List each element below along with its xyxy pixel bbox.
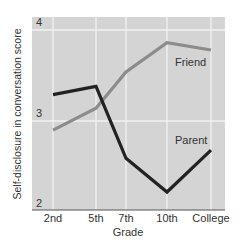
x-tick-label: College: [192, 212, 229, 224]
x-axis-label: Grade: [113, 226, 144, 238]
y-tick-label: 2: [36, 197, 42, 209]
x-tick-label: 7th: [118, 212, 133, 224]
y-tick-label: 4: [36, 16, 42, 28]
line-chart: 234 2nd5th7th10thCollege Grade Self-disc…: [0, 0, 242, 245]
x-tick-labels: 2nd5th7th10thCollege: [44, 212, 230, 224]
y-axis-label: Self-disclosure in conversation score: [11, 28, 23, 199]
x-tick-label: 5th: [88, 212, 103, 224]
x-tick-label: 10th: [156, 212, 177, 224]
series-label-friend: Friend: [175, 56, 206, 68]
series-label-parent: Parent: [175, 134, 207, 146]
y-tick-label: 3: [36, 107, 42, 119]
x-tick-label: 2nd: [44, 212, 62, 224]
